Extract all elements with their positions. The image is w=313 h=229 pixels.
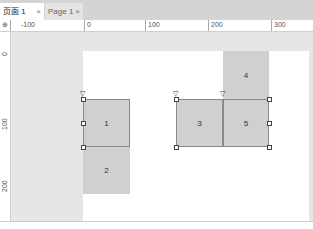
ruler-label: 300: [274, 21, 286, 28]
anchor-pin-icon[interactable]: ▽: [173, 90, 178, 97]
resize-handle[interactable]: [267, 97, 272, 102]
shape-3[interactable]: 3: [176, 99, 223, 147]
tab-label: 页面 1: [3, 7, 26, 16]
resize-handle[interactable]: [267, 121, 272, 126]
status-bar: [0, 221, 313, 229]
resize-handle[interactable]: [81, 121, 86, 126]
tab-page-1-cn[interactable]: 页面 1 ×: [0, 3, 44, 20]
resize-handle[interactable]: [174, 97, 179, 102]
anchor-pin-icon[interactable]: ▽: [220, 90, 225, 97]
shape-label: 1: [104, 119, 108, 128]
ruler-label: 200: [211, 21, 223, 28]
shape-1[interactable]: 1: [83, 99, 130, 147]
resize-handle[interactable]: [267, 145, 272, 150]
horizontal-ruler[interactable]: ⊕ -100 0 100 200 300: [0, 20, 313, 32]
ruler-origin-icon[interactable]: ⊕: [2, 21, 8, 29]
shape-2[interactable]: 2: [83, 147, 130, 194]
ruler-label: 200: [1, 180, 8, 192]
close-icon[interactable]: ×: [75, 3, 80, 20]
shape-label: 4: [244, 71, 248, 80]
anchor-pin-icon[interactable]: ▽: [80, 90, 85, 97]
ruler-label: -100: [21, 21, 35, 28]
vertical-ruler[interactable]: 0 100 200: [0, 32, 11, 222]
tab-page-1[interactable]: Page 1 ×: [45, 3, 83, 20]
tab-label: Page 1: [48, 7, 73, 16]
tab-bar: 页面 1 × Page 1 ×: [0, 0, 313, 21]
ruler-label: 100: [148, 21, 160, 28]
resize-handle[interactable]: [81, 145, 86, 150]
ruler-label: 0: [1, 52, 8, 56]
shape-4[interactable]: 4: [223, 51, 269, 99]
resize-handle[interactable]: [81, 97, 86, 102]
resize-handle[interactable]: [174, 145, 179, 150]
shape-label: 3: [197, 119, 201, 128]
shape-label: 5: [244, 119, 248, 128]
shape-label: 2: [104, 166, 108, 175]
close-icon[interactable]: ×: [36, 3, 41, 20]
shape-5[interactable]: 5: [223, 99, 269, 147]
ruler-label: 0: [87, 21, 91, 28]
ruler-label: 100: [1, 118, 8, 130]
